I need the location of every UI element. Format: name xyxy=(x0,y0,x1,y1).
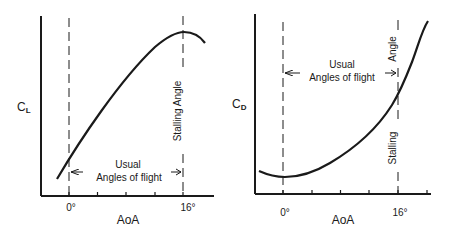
x-axis-label: AoA xyxy=(332,213,355,227)
stalling-label: Stalling xyxy=(387,132,398,165)
angles-of-flight-label: Angles of flight xyxy=(96,172,162,183)
tick-label-0: 0° xyxy=(66,202,76,213)
usual-label: Usual xyxy=(115,159,141,170)
angle-label: Angle xyxy=(387,36,398,62)
angles-of-flight-label: Angles of flight xyxy=(309,72,375,83)
cd-axis-label: CD xyxy=(232,97,247,112)
drag-coefficient-chart: CD Angle Stalling Usual Angles of flight… xyxy=(232,14,431,227)
tick-label-0: 0° xyxy=(280,207,290,218)
cl-axis-label: CL xyxy=(17,100,31,115)
lift-coefficient-chart: CL Stalling Angle Usual Angles of flight… xyxy=(17,16,214,227)
tick-label-16: 16° xyxy=(180,202,195,213)
tick-label-16: 16° xyxy=(392,207,407,218)
drag-curve xyxy=(259,21,428,177)
x-axis-label: AoA xyxy=(117,213,140,227)
aerodynamics-diagram: CL Stalling Angle Usual Angles of flight… xyxy=(0,0,449,236)
usual-label: Usual xyxy=(329,59,355,70)
stalling-angle-label: Stalling Angle xyxy=(172,80,183,141)
